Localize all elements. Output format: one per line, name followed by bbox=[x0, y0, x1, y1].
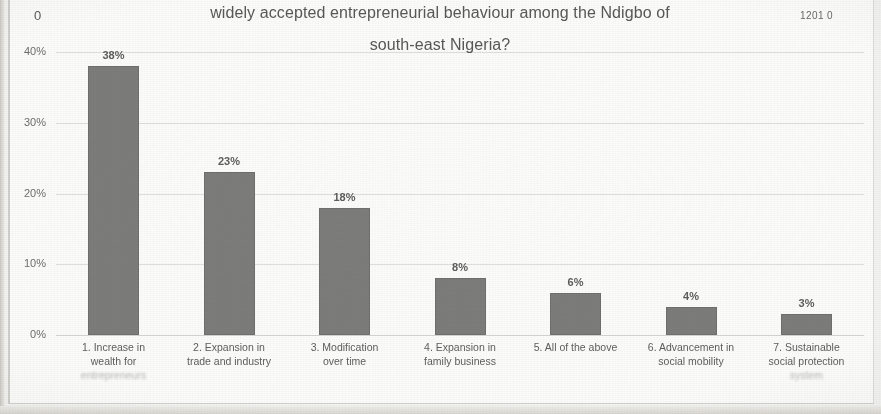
bar[interactable] bbox=[88, 66, 139, 335]
bar-value-label: 4% bbox=[683, 290, 699, 302]
x-axis-label-line: 5. All of the above bbox=[518, 340, 633, 354]
x-axis-category-label: 3. Modificationover time bbox=[287, 340, 402, 414]
bar-value-label: 8% bbox=[452, 261, 468, 273]
bar-group[interactable]: 38% bbox=[56, 52, 171, 335]
x-axis-label-line: entrepreneurs bbox=[56, 368, 171, 382]
chart-title-line-1: widely accepted entrepreneurial behaviou… bbox=[150, 2, 730, 23]
bar-group[interactable]: 3% bbox=[749, 52, 864, 335]
x-axis-label-line: social protection bbox=[749, 354, 864, 368]
bar[interactable] bbox=[319, 208, 370, 335]
x-axis-label-line: wealth for bbox=[56, 354, 171, 368]
y-axis-tick-label: 10% bbox=[31, 257, 46, 271]
x-axis-label-line: over time bbox=[287, 354, 402, 368]
x-axis-category-label: 5. All of the above bbox=[518, 340, 633, 414]
scanned-chart-page: 0 1201 0 widely accepted entrepreneurial… bbox=[0, 0, 881, 414]
bar-value-label: 38% bbox=[102, 49, 124, 61]
x-axis-category-label: 6. Advancement insocial mobility bbox=[634, 340, 749, 414]
x-axis-label-line: family business bbox=[403, 354, 518, 368]
bar-value-label: 23% bbox=[218, 155, 240, 167]
x-axis-label-line: 1. Increase in bbox=[56, 340, 171, 354]
bar-value-label: 3% bbox=[799, 297, 815, 309]
y-axis-labels: 40%30%20%10%0% bbox=[0, 52, 56, 342]
gridline bbox=[56, 335, 864, 336]
bar[interactable] bbox=[781, 314, 832, 335]
chart-title-line-2: south-east Nigeria? bbox=[150, 34, 730, 55]
y-axis-tick-label: 30% bbox=[31, 116, 46, 130]
bar-value-label: 6% bbox=[568, 276, 584, 288]
x-axis-category-label: 4. Expansion infamily business bbox=[403, 340, 518, 414]
x-axis-label-line: 4. Expansion in bbox=[403, 340, 518, 354]
bar[interactable] bbox=[435, 278, 486, 335]
bar[interactable] bbox=[550, 293, 601, 335]
bar[interactable] bbox=[666, 307, 717, 335]
y-axis-tick-label: 40% bbox=[31, 45, 46, 59]
page-number-right: 1201 0 bbox=[800, 10, 833, 21]
x-axis-label-line: system bbox=[749, 368, 864, 382]
x-axis-category-label: 2. Expansion intrade and industry bbox=[172, 340, 287, 414]
page-number-left: 0 bbox=[34, 8, 41, 23]
bar-value-label: 18% bbox=[333, 191, 355, 203]
chart-title: widely accepted entrepreneurial behaviou… bbox=[150, 2, 730, 55]
x-axis-category-label: 7. Sustainablesocial protectionsystem bbox=[749, 340, 864, 414]
x-axis-label-line: trade and industry bbox=[172, 354, 287, 368]
x-axis-label-line: social mobility bbox=[634, 354, 749, 368]
plot-area: 38%23%18%8%6%4%3% bbox=[56, 52, 864, 335]
bar-group[interactable]: 8% bbox=[403, 52, 518, 335]
bar-group[interactable]: 18% bbox=[287, 52, 402, 335]
bar-group[interactable]: 4% bbox=[634, 52, 749, 335]
x-axis-label-line: 2. Expansion in bbox=[172, 340, 287, 354]
x-axis-category-label: 1. Increase inwealth forentrepreneurs bbox=[56, 340, 171, 414]
bar-series: 38%23%18%8%6%4%3% bbox=[56, 52, 864, 335]
x-axis-label-line: 6. Advancement in bbox=[634, 340, 749, 354]
bar-group[interactable]: 23% bbox=[172, 52, 287, 335]
y-axis-tick-label: 0% bbox=[37, 328, 46, 342]
bar[interactable] bbox=[204, 172, 255, 335]
bar-group[interactable]: 6% bbox=[518, 52, 633, 335]
y-axis-tick-label: 20% bbox=[31, 187, 46, 201]
x-axis-label-line: 7. Sustainable bbox=[749, 340, 864, 354]
x-axis-label-line: 3. Modification bbox=[287, 340, 402, 354]
x-axis-labels: 1. Increase inwealth forentrepreneurs2. … bbox=[56, 340, 864, 414]
